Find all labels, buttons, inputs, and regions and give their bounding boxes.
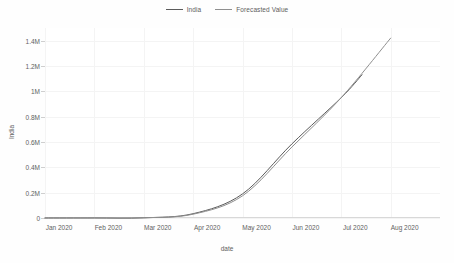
y-tick-label: 0.2M (2, 189, 40, 196)
legend-item-forecasted-value[interactable]: Forecasted Value (215, 6, 288, 13)
x-tick-label: Jan 2020 (46, 224, 73, 231)
y-tick-label: 0.4M (2, 164, 40, 171)
legend-swatch-forecasted-value (215, 9, 232, 10)
y-tick-label: 1.2M (2, 63, 40, 70)
series-layer (45, 28, 440, 218)
x-tick-label: Aug 2020 (391, 224, 419, 231)
y-tick-label: 1M (2, 88, 40, 95)
series-line-india (45, 75, 362, 218)
y-tick-label: 1.4M (2, 37, 40, 44)
legend-label-forecasted-value: Forecasted Value (236, 6, 288, 13)
y-tick-label: 0 (2, 215, 40, 222)
x-tick-label: Jun 2020 (293, 224, 320, 231)
plot-area (45, 28, 440, 218)
y-axis-title: India (8, 124, 15, 138)
line-chart: India Forecasted Value India 00.2M0.4M0.… (0, 0, 454, 263)
x-tick-label: Feb 2020 (95, 224, 122, 231)
x-axis-title: date (0, 245, 454, 252)
x-tick-label: Apr 2020 (194, 224, 220, 231)
legend-item-india[interactable]: India (166, 6, 202, 13)
chart-legend: India Forecasted Value (0, 6, 454, 13)
y-tick-label: 0.6M (2, 139, 40, 146)
x-tick-label: Mar 2020 (144, 224, 171, 231)
series-line-forecasted-value (45, 38, 391, 218)
x-tick-label: Jul 2020 (343, 224, 368, 231)
x-tick-label: May 2020 (242, 224, 271, 231)
legend-label-india: India (187, 6, 202, 13)
legend-swatch-india (166, 9, 183, 10)
y-tick-label: 0.8M (2, 113, 40, 120)
